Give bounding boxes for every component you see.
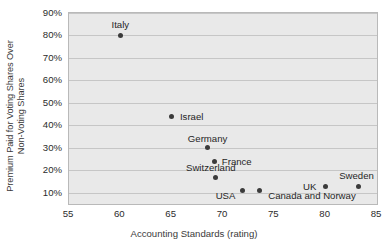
data-point-label: Sweden [339, 170, 374, 181]
x-axis-tick-labels: 55606570758085 [68, 208, 378, 224]
gridline-60% [69, 80, 377, 81]
y-tick-label: 50% [28, 96, 62, 107]
data-point [213, 175, 218, 180]
x-tick-label: 80 [319, 208, 330, 219]
y-axis-title-line-2: Non-Voting Shares [16, 78, 28, 154]
data-point-label: USA [216, 189, 236, 200]
gridline-30% [69, 148, 377, 149]
plot-area: ItalyIsraelGermanyFranceSwitzerlandUSACa… [68, 12, 378, 205]
data-point [169, 114, 174, 119]
x-tick-label: 85 [371, 208, 382, 219]
data-point [118, 33, 123, 38]
gridline-40% [69, 125, 377, 126]
y-tick-label: 30% [28, 141, 62, 152]
data-point [356, 184, 361, 189]
gridline-90% [69, 13, 377, 14]
data-point-label: Italy [112, 19, 130, 30]
x-axis-title: Accounting Standards (rating) [0, 228, 388, 239]
gridline-50% [69, 103, 377, 104]
y-axis-title: Premium Paid for Voting Shares Over Non-… [3, 16, 29, 216]
data-point [205, 145, 210, 150]
y-axis-tick-labels: 10%20%30%40%50%60%70%80%90% [30, 12, 66, 205]
data-point-label: Switzerland [186, 162, 236, 173]
data-point [323, 184, 328, 189]
y-tick-label: 80% [28, 29, 62, 40]
y-tick-label: 20% [28, 164, 62, 175]
data-point-label: UK [303, 181, 316, 192]
y-tick-label: 70% [28, 51, 62, 62]
y-axis-title-line-1: Premium Paid for Voting Shares Over [5, 40, 17, 191]
gridline-70% [69, 58, 377, 59]
x-tick-label: 55 [63, 208, 74, 219]
data-point [240, 188, 245, 193]
y-tick-label: 10% [28, 186, 62, 197]
x-tick-label: 60 [114, 208, 125, 219]
scatter-chart: Premium Paid for Voting Shares Over Non-… [0, 0, 388, 249]
gridline-80% [69, 35, 377, 36]
y-tick-label: 90% [28, 7, 62, 18]
data-point-label: Israel [180, 111, 203, 122]
x-tick-label: 70 [217, 208, 228, 219]
x-tick-label: 75 [268, 208, 279, 219]
y-tick-label: 60% [28, 74, 62, 85]
x-tick-label: 65 [165, 208, 176, 219]
data-point-label: Germany [188, 132, 227, 143]
y-tick-label: 40% [28, 119, 62, 130]
